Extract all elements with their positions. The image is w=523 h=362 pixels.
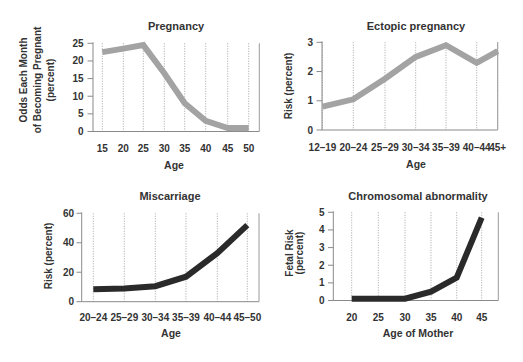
y-axis-title-line: Risk (percent) <box>283 53 294 120</box>
x-tick-label: 40–44 <box>203 312 231 323</box>
y-tick-label: 3 <box>307 37 313 48</box>
y-axis-title: Risk (percent) <box>43 223 54 290</box>
x-tick-label: 20–24 <box>79 312 107 323</box>
y-axis-title-line: of Becoming Pregnant <box>32 26 43 133</box>
data-series-line <box>93 225 247 289</box>
y-tick-label: 15 <box>72 73 84 84</box>
y-tick-label: 0 <box>78 126 84 137</box>
x-tick-label: 30–34 <box>141 312 169 323</box>
x-tick-label: 35–39 <box>172 312 200 323</box>
y-tick-label: 2 <box>319 260 325 271</box>
y-tick-label: 4 <box>319 224 325 235</box>
y-tick-label: 2 <box>307 66 313 77</box>
x-tick-label: 25–29 <box>110 312 138 323</box>
x-tick-label: 15 <box>97 143 109 154</box>
x-axis-title: Age <box>164 159 184 171</box>
x-tick-label: 45 <box>222 143 234 154</box>
chart-title: Miscarriage <box>139 190 200 202</box>
y-axis-ticks: 0204060 <box>63 208 82 307</box>
y-tick-label: 10 <box>72 91 84 102</box>
x-tick-label: 25 <box>138 143 150 154</box>
x-tick-label: 50 <box>243 143 255 154</box>
y-tick-label: 5 <box>78 108 84 119</box>
y-tick-label: 5 <box>319 207 325 218</box>
y-tick-label: 60 <box>63 208 75 219</box>
chart-pregnancy: Pregnancy Age Odds Each Month of Becomin… <box>18 20 259 171</box>
y-axis-title: Risk (percent) <box>283 53 294 120</box>
chart-ectopic-pregnancy: Ectopic pregnancy Age Risk (percent) 012… <box>283 20 507 170</box>
data-series-line <box>352 218 482 299</box>
x-tick-label: 12–19 <box>309 142 337 153</box>
x-tick-label: 25 <box>373 312 385 323</box>
data-series-line <box>102 45 248 128</box>
x-axis-ticks: 12–1920–2425–2930–3435–3940–4445+ <box>309 142 507 153</box>
x-tick-label: 45 <box>476 312 488 323</box>
chart-title: Ectopic pregnancy <box>367 20 466 32</box>
y-axis-title-line: Fetal Risk <box>284 229 295 277</box>
x-tick-label: 35–39 <box>432 142 460 153</box>
gridlines <box>352 212 482 300</box>
x-tick-label: 30 <box>159 143 171 154</box>
y-axis-ticks: 0510152025 <box>72 38 93 137</box>
x-tick-label: 40–44 <box>463 142 491 153</box>
y-axis-title: Fetal Risk (percent) <box>284 229 306 277</box>
y-tick-label: 1 <box>319 277 325 288</box>
y-axis-title-line: Odds Each Month <box>18 38 29 123</box>
x-tick-label: 20 <box>346 312 358 323</box>
figure-canvas: Pregnancy Age Odds Each Month of Becomin… <box>0 0 523 362</box>
x-tick-label: 40 <box>451 312 463 323</box>
x-axis-ticks: 202530354045 <box>346 312 488 323</box>
x-tick-label: 20–24 <box>339 142 367 153</box>
y-tick-label: 1 <box>307 95 313 106</box>
data-series-line <box>323 45 498 106</box>
x-tick-label: 40 <box>200 143 212 154</box>
y-axis-ticks: 012345 <box>319 207 333 306</box>
x-axis-title: Age <box>406 158 426 170</box>
x-tick-label: 20 <box>118 143 130 154</box>
x-tick-label: 35 <box>179 143 191 154</box>
x-tick-label: 35 <box>425 312 437 323</box>
y-tick-label: 25 <box>72 38 84 49</box>
y-tick-label: 0 <box>307 125 313 136</box>
y-axis-title-line: (percent) <box>45 59 56 102</box>
x-axis-title: Age <box>161 327 181 339</box>
y-tick-label: 0 <box>319 295 325 306</box>
y-tick-label: 20 <box>72 55 84 66</box>
chart-miscarriage: Miscarriage Age Risk (percent) 020406020… <box>43 190 262 339</box>
x-tick-label: 30 <box>399 312 411 323</box>
x-tick-label: 25–29 <box>371 142 399 153</box>
y-axis-title: Odds Each Month of Becoming Pregnant (pe… <box>18 26 56 133</box>
y-axis-ticks: 0123 <box>307 37 322 136</box>
x-tick-label: 45+ <box>489 142 506 153</box>
chart-chromosomal-abnormality: Chromosomal abnormality Age of Mother Fe… <box>284 190 499 339</box>
x-tick-label: 45–50 <box>233 312 261 323</box>
y-tick-label: 0 <box>68 296 74 307</box>
y-axis-title-line: (percent) <box>294 232 305 275</box>
y-axis-title-line: Risk (percent) <box>43 223 54 290</box>
y-tick-label: 3 <box>319 242 325 253</box>
x-tick-label: 30–34 <box>402 142 430 153</box>
y-tick-label: 20 <box>63 267 75 278</box>
x-axis-title: Age of Mother <box>383 327 454 339</box>
gridlines <box>323 42 498 130</box>
chart-title: Pregnancy <box>148 20 205 32</box>
y-tick-label: 40 <box>63 237 75 248</box>
x-axis-ticks: 1520253035404550 <box>97 143 255 154</box>
chart-title: Chromosomal abnormality <box>348 190 488 202</box>
x-axis-ticks: 20–2425–2930–3435–3940–4445–50 <box>79 312 261 323</box>
